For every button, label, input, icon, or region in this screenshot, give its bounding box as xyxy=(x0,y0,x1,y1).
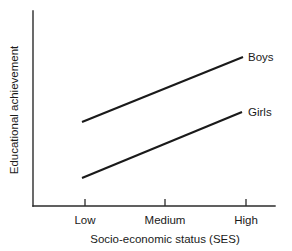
x-axis-title: Socio-economic status (SES) xyxy=(90,233,240,245)
series-line-girls xyxy=(82,112,242,178)
series-label-girls: Girls xyxy=(248,106,272,118)
chart-figure: Low Medium High Socio-economic status (S… xyxy=(0,0,292,251)
line-chart-canvas: Low Medium High Socio-economic status (S… xyxy=(0,0,292,251)
x-tick-label-low: Low xyxy=(74,214,96,226)
x-tick-label-high: High xyxy=(234,214,258,226)
series-label-boys: Boys xyxy=(248,51,274,63)
y-axis-title: Educational achievement xyxy=(8,45,20,174)
x-tick-label-medium: Medium xyxy=(145,214,186,226)
series-line-boys xyxy=(82,57,243,122)
